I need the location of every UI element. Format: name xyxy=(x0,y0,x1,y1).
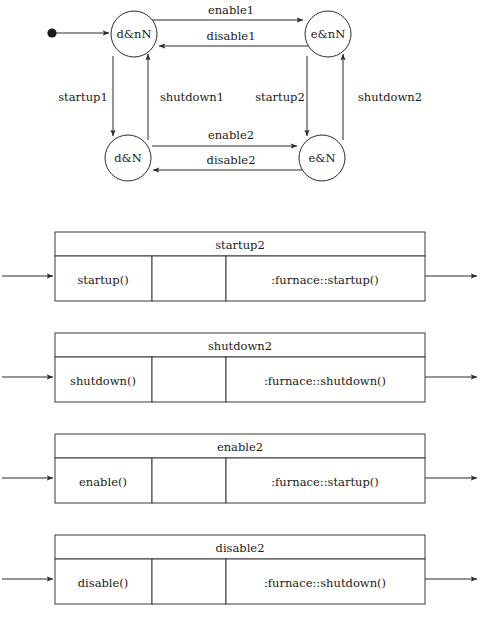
transition-enable2-label: enable2 xyxy=(208,128,254,142)
transition-tables-group: startup2 startup() :furnace::startup() s… xyxy=(0,210,495,630)
table-disable2-title: disable2 xyxy=(216,541,265,555)
table-enable2-title: enable2 xyxy=(217,440,263,454)
table-disable2-cell-action: :furnace::shutdown() xyxy=(264,576,386,590)
initial-pseudostate-dot xyxy=(47,28,56,37)
transition-enable1-label: enable1 xyxy=(208,3,254,17)
table-shutdown2-col2 xyxy=(152,357,226,402)
transition-table-disable2[interactable]: disable2 disable() :furnace::shutdown() xyxy=(2,535,477,604)
table-shutdown2-cell-trigger: shutdown() xyxy=(70,374,136,388)
table-shutdown2-title: shutdown2 xyxy=(208,339,272,353)
table-startup2-cell-trigger: startup() xyxy=(77,273,128,287)
table-enable2-col2 xyxy=(152,458,226,503)
transition-table-shutdown2[interactable]: shutdown2 shutdown() :furnace::shutdown(… xyxy=(2,333,477,402)
state-e-and-nN-label: e&nN xyxy=(311,27,346,41)
state-e-and-N-label: e&N xyxy=(308,151,335,165)
transition-table-enable2[interactable]: enable2 enable() :furnace::startup() xyxy=(2,434,477,503)
state-d-and-N-label: d&N xyxy=(114,151,142,165)
table-startup2-col2 xyxy=(152,256,226,301)
transition-table-startup2[interactable]: startup2 startup() :furnace::startup() xyxy=(2,232,477,301)
transition-shutdown1-label: shutdown1 xyxy=(160,90,224,104)
state-machine-diagram: enable1 disable1 startup1 shutdown1 star… xyxy=(0,0,495,200)
table-startup2-cell-action: :furnace::startup() xyxy=(271,273,379,287)
table-disable2-cell-trigger: disable() xyxy=(78,576,129,590)
transition-startup1-label: startup1 xyxy=(58,90,108,104)
figure-root: enable1 disable1 startup1 shutdown1 star… xyxy=(0,0,495,630)
table-disable2-col2 xyxy=(152,559,226,604)
state-d-and-nN-label: d&nN xyxy=(116,27,151,41)
table-startup2-title: startup2 xyxy=(215,238,265,252)
table-enable2-cell-trigger: enable() xyxy=(79,475,127,489)
transition-disable1-label: disable1 xyxy=(207,29,256,43)
transition-disable2-label: disable2 xyxy=(207,153,256,167)
transition-startup2-label: startup2 xyxy=(255,90,305,104)
transition-shutdown2-label: shutdown2 xyxy=(358,90,422,104)
table-enable2-cell-action: :furnace::startup() xyxy=(271,475,379,489)
table-shutdown2-cell-action: :furnace::shutdown() xyxy=(264,374,386,388)
